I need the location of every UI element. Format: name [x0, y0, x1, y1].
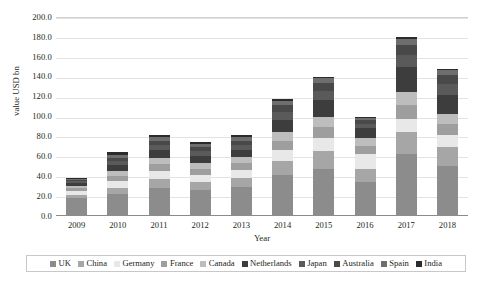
bar-group-2012[interactable] — [180, 17, 221, 216]
legend-item-japan[interactable]: Japan — [299, 259, 327, 268]
bar-segment-france[interactable] — [231, 163, 252, 170]
legend-swatch-icon — [334, 261, 340, 267]
chart-container: value USD bn 0.020.040.060.080.0100.0120… — [0, 0, 485, 289]
bar-segment-france[interactable] — [313, 127, 334, 138]
stacked-bar[interactable] — [149, 135, 170, 216]
bar-group-2010[interactable] — [97, 17, 138, 216]
bar-segment-germany[interactable] — [231, 170, 252, 178]
bar-segment-netherlands[interactable] — [396, 67, 417, 92]
bar-segment-netherlands[interactable] — [272, 120, 293, 133]
legend-swatch-icon — [381, 261, 387, 267]
bar-segment-japan[interactable] — [437, 84, 458, 95]
legend-label: Australia — [342, 259, 374, 268]
y-axis-tick-label: 160.0 — [8, 53, 52, 62]
bar-segment-australia[interactable] — [396, 45, 417, 55]
legend-item-france[interactable]: France — [161, 259, 193, 268]
bar-segment-china[interactable] — [149, 179, 170, 188]
legend-item-india[interactable]: India — [416, 259, 442, 268]
legend-label: France — [170, 259, 193, 268]
bar-segment-netherlands[interactable] — [313, 100, 334, 117]
bar-segment-france[interactable] — [437, 124, 458, 135]
bar-group-2017[interactable] — [386, 17, 427, 216]
bar-group-2011[interactable] — [138, 17, 179, 216]
bar-segment-canada[interactable] — [272, 132, 293, 141]
stacked-bar[interactable] — [66, 178, 87, 216]
legend-label: UK — [59, 259, 71, 268]
bar-segment-japan[interactable] — [396, 55, 417, 67]
bar-segment-japan[interactable] — [272, 112, 293, 120]
legend-item-uk[interactable]: UK — [50, 259, 71, 268]
y-axis-tick-label: 80.0 — [8, 132, 52, 141]
stacked-bar[interactable] — [437, 69, 458, 216]
legend-item-germany[interactable]: Germany — [114, 259, 154, 268]
bar-segment-china[interactable] — [437, 147, 458, 166]
legend-swatch-icon — [50, 261, 56, 267]
stacked-bar[interactable] — [272, 99, 293, 216]
bar-segment-netherlands[interactable] — [190, 156, 211, 163]
legend-swatch-icon — [299, 261, 305, 267]
bar-segment-australia[interactable] — [313, 83, 334, 90]
bar-segment-germany[interactable] — [396, 119, 417, 133]
legend-item-australia[interactable]: Australia — [334, 259, 374, 268]
legend-swatch-icon — [200, 261, 206, 267]
legend-item-canada[interactable]: Canada — [200, 259, 234, 268]
bar-segment-canada[interactable] — [355, 138, 376, 146]
bar-segment-france[interactable] — [149, 164, 170, 171]
bar-segment-germany[interactable] — [272, 150, 293, 161]
bar-segment-uk[interactable] — [272, 175, 293, 216]
stacked-bar[interactable] — [190, 142, 211, 216]
bar-segment-canada[interactable] — [313, 117, 334, 128]
bar-segment-uk[interactable] — [107, 194, 128, 216]
bar-segment-france[interactable] — [272, 141, 293, 150]
stacked-bar[interactable] — [231, 135, 252, 216]
stacked-bar[interactable] — [313, 77, 334, 216]
x-axis-tick-label: 2015 — [303, 219, 344, 233]
bar-segment-france[interactable] — [355, 146, 376, 154]
bar-group-2014[interactable] — [262, 17, 303, 216]
bar-segment-uk[interactable] — [190, 190, 211, 216]
y-axis-tick-labels: 0.020.040.060.080.0100.0120.0140.0160.01… — [6, 17, 52, 216]
legend-item-china[interactable]: China — [78, 259, 107, 268]
bar-segment-china[interactable] — [190, 182, 211, 190]
bar-segment-uk[interactable] — [437, 166, 458, 216]
bar-segment-uk[interactable] — [355, 182, 376, 216]
bar-segment-germany[interactable] — [313, 138, 334, 151]
stacked-bar[interactable] — [355, 117, 376, 216]
bar-group-2016[interactable] — [344, 17, 385, 216]
bar-segment-germany[interactable] — [107, 181, 128, 188]
legend-swatch-icon — [78, 261, 84, 267]
bar-segment-netherlands[interactable] — [355, 128, 376, 138]
bar-segment-germany[interactable] — [437, 135, 458, 147]
x-axis-tick-label: 2018 — [427, 219, 468, 233]
bar-segment-uk[interactable] — [231, 187, 252, 216]
bar-group-2015[interactable] — [303, 17, 344, 216]
bar-group-2013[interactable] — [221, 17, 262, 216]
bar-segment-canada[interactable] — [437, 114, 458, 125]
bar-segment-france[interactable] — [396, 105, 417, 119]
bar-segment-china[interactable] — [272, 161, 293, 175]
bar-segment-uk[interactable] — [396, 154, 417, 216]
bar-segment-china[interactable] — [355, 169, 376, 182]
legend-item-netherlands[interactable]: Netherlands — [242, 259, 292, 268]
stacked-bar[interactable] — [396, 37, 417, 216]
bar-segment-netherlands[interactable] — [231, 150, 252, 157]
stacked-bar[interactable] — [107, 152, 128, 216]
legend-item-spain[interactable]: Spain — [381, 259, 409, 268]
bar-segment-netherlands[interactable] — [149, 150, 170, 158]
y-axis-tick-label: 100.0 — [8, 112, 52, 121]
bar-segment-china[interactable] — [231, 178, 252, 187]
bar-segment-netherlands[interactable] — [437, 95, 458, 114]
bar-group-2018[interactable] — [427, 17, 468, 216]
bar-segment-germany[interactable] — [355, 154, 376, 169]
bar-segment-uk[interactable] — [149, 188, 170, 216]
bar-segment-australia[interactable] — [437, 75, 458, 83]
bar-segment-germany[interactable] — [149, 171, 170, 179]
bar-segment-uk[interactable] — [66, 198, 87, 216]
bar-segment-china[interactable] — [396, 132, 417, 154]
bar-segment-china[interactable] — [313, 151, 334, 169]
bar-segment-japan[interactable] — [313, 91, 334, 100]
bar-segment-uk[interactable] — [313, 169, 334, 216]
bar-segment-canada[interactable] — [396, 92, 417, 105]
bar-segment-germany[interactable] — [190, 175, 211, 182]
bar-group-2009[interactable] — [56, 17, 97, 216]
